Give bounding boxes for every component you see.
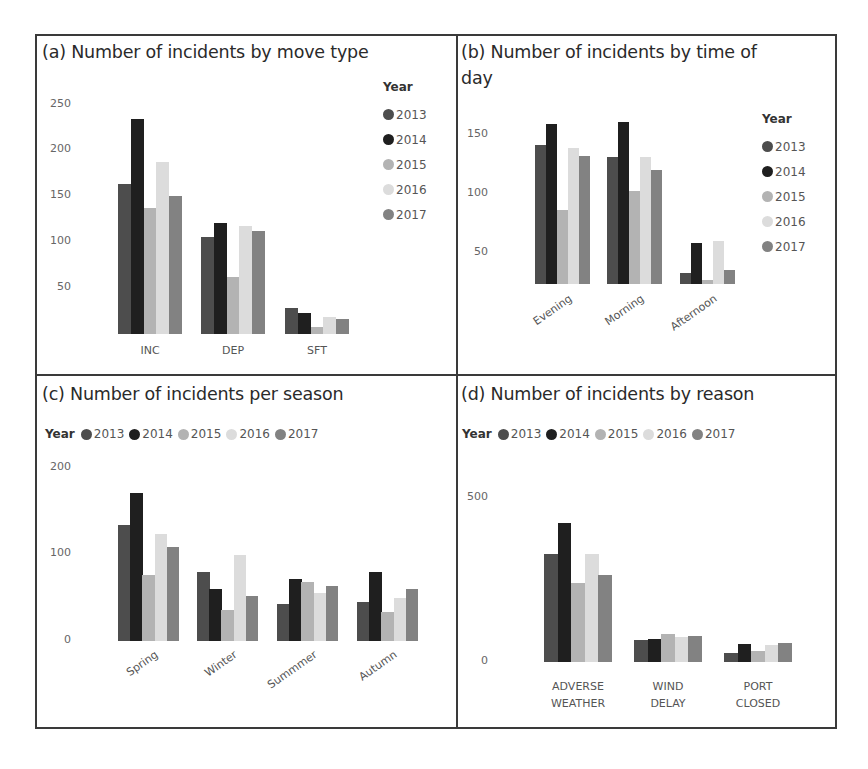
bar[interactable] [640,157,651,284]
bar[interactable] [214,223,227,334]
bar[interactable] [557,210,568,284]
bar[interactable] [651,170,662,284]
bar[interactable] [738,644,752,662]
legend-title: Year [383,80,427,94]
x-tick-label: Summmer [238,648,319,710]
bar[interactable] [311,327,324,334]
y-tick-label: 200 [39,460,71,473]
bar[interactable] [394,598,407,641]
legend-item-2015[interactable]: 2015 [383,152,427,177]
bar[interactable] [724,653,738,662]
legend-item-2016[interactable]: 2016 [226,427,270,441]
legend-item-2014[interactable]: 2014 [383,127,427,152]
legend-dot-icon [383,109,394,120]
bar[interactable] [357,602,370,641]
x-tick-label-line: PORT [708,678,808,695]
bar[interactable] [751,651,765,662]
bar[interactable] [118,184,131,334]
legend: Year 20132014201520162017 [45,427,323,441]
chart-panel-reason: (d) Number of incidents by reason Year 2… [458,376,837,729]
bar[interactable] [289,579,302,641]
bar[interactable] [713,241,724,284]
bar[interactable] [156,162,169,334]
bar[interactable] [661,634,675,662]
bar[interactable] [142,575,155,641]
bar[interactable] [568,148,579,284]
bar[interactable] [618,122,629,284]
legend-item-2014[interactable]: 2014 [129,427,173,441]
bar[interactable] [197,572,210,641]
bar[interactable] [155,534,168,641]
bar[interactable] [298,313,311,334]
legend-item-2015[interactable]: 2015 [178,427,222,441]
legend-label: 2015 [191,427,222,441]
y-tick-label: 200 [39,142,71,155]
legend-label: 2014 [396,133,427,147]
bar[interactable] [680,273,691,284]
legend-item-2013[interactable]: 2013 [81,427,125,441]
bar[interactable] [579,156,590,284]
legend-item-2013[interactable]: 2013 [383,102,427,127]
bar[interactable] [301,582,314,641]
bar[interactable] [234,555,247,641]
bar[interactable] [252,231,265,334]
legend-item-2016[interactable]: 2016 [762,209,806,234]
bar[interactable] [246,596,259,641]
bar[interactable] [336,319,349,334]
legend-item-2013[interactable]: 2013 [498,427,542,441]
bar[interactable] [778,643,792,662]
legend-item-2015[interactable]: 2015 [762,184,806,209]
bar[interactable] [131,119,144,334]
bar[interactable] [169,196,182,334]
bar[interactable] [381,612,394,641]
legend: Year 20132014201520162017 [462,427,740,441]
legend-title: Year [762,112,806,126]
legend-item-2017[interactable]: 2017 [692,427,736,441]
bar[interactable] [629,191,640,284]
legend-item-2014[interactable]: 2014 [762,159,806,184]
bar[interactable] [221,610,234,641]
bar[interactable] [691,243,702,284]
legend-label: 2016 [239,427,270,441]
bar[interactable] [546,124,557,284]
bar[interactable] [675,637,689,662]
bar[interactable] [688,636,702,662]
bar[interactable] [648,639,662,662]
bar[interactable] [535,145,546,284]
bar[interactable] [144,208,157,334]
bar[interactable] [369,572,382,641]
bar[interactable] [571,583,585,662]
legend-dot-icon [226,429,237,440]
legend-item-2016[interactable]: 2016 [383,177,427,202]
bar[interactable] [239,226,252,334]
bar[interactable] [585,554,599,662]
bar[interactable] [326,586,339,641]
bar[interactable] [323,317,336,334]
bar[interactable] [607,157,618,284]
bar[interactable] [634,640,648,662]
bar[interactable] [558,523,572,662]
legend-item-2017[interactable]: 2017 [383,202,427,227]
bar[interactable] [285,308,298,334]
bar[interactable] [598,575,612,662]
legend-dot-icon [762,166,773,177]
bar[interactable] [227,277,240,334]
bar[interactable] [544,554,558,662]
legend-item-2015[interactable]: 2015 [595,427,639,441]
bar[interactable] [277,604,290,641]
bar[interactable] [406,589,419,641]
legend-item-2017[interactable]: 2017 [762,234,806,259]
bar[interactable] [209,589,222,641]
bar[interactable] [765,645,779,662]
bar[interactable] [201,237,214,334]
legend-item-2017[interactable]: 2017 [275,427,319,441]
legend-item-2014[interactable]: 2014 [546,427,590,441]
bar[interactable] [314,593,327,641]
bar[interactable] [167,547,180,641]
legend-item-2016[interactable]: 2016 [643,427,687,441]
bar[interactable] [130,493,143,641]
bar[interactable] [724,270,735,284]
bar[interactable] [702,280,713,284]
bar[interactable] [118,525,131,641]
legend-item-2013[interactable]: 2013 [762,134,806,159]
